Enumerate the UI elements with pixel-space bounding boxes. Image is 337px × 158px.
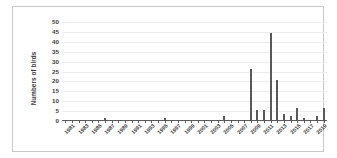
y-tick-label: 35	[43, 49, 59, 55]
y-tick-label: 10	[43, 98, 59, 104]
bar	[296, 108, 298, 120]
y-tick-label: 50	[43, 19, 59, 25]
plot-area	[62, 21, 327, 121]
y-tick-label: 0	[43, 118, 59, 124]
y-tick-label: 25	[43, 69, 59, 75]
y-tick-label: 40	[43, 39, 59, 45]
y-tick-label: 5	[43, 108, 59, 114]
bar-series	[62, 21, 327, 120]
y-tick-label: 20	[43, 78, 59, 84]
bar	[263, 110, 265, 120]
bar	[323, 108, 325, 120]
bar	[250, 69, 252, 120]
y-axis-tick-labels: 05101520253035404550	[43, 21, 59, 121]
x-axis-line	[62, 120, 327, 121]
y-tick-label: 45	[43, 29, 59, 35]
bar	[270, 33, 272, 120]
plot-area-wrapper: 05101520253035404550	[43, 21, 331, 129]
y-tick-label: 30	[43, 59, 59, 65]
x-axis-tick-labels: 1981198319851987198919911993199519971999…	[62, 131, 327, 158]
chart-frame: Numbers of birds 05101520253035404550 19…	[12, 6, 324, 152]
y-tick-label: 15	[43, 88, 59, 94]
bar	[276, 80, 278, 120]
y-axis-title: Numbers of birds	[27, 35, 41, 121]
bar	[256, 110, 258, 120]
y-axis-title-text: Numbers of birds	[31, 51, 38, 105]
